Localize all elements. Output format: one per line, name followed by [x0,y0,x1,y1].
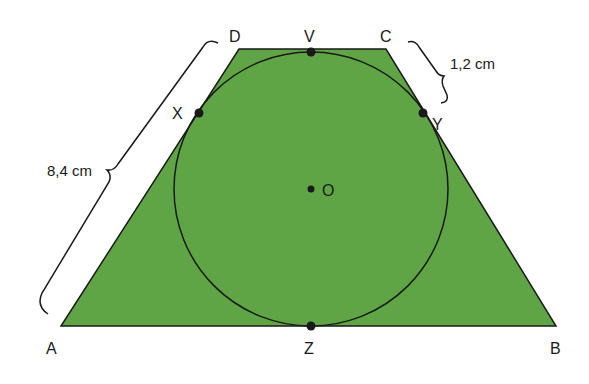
label-o: O [322,182,334,199]
center-o [308,186,315,193]
label-c: C [380,28,392,45]
measure-cy: 1,2 cm [450,55,495,72]
label-v: V [304,28,315,45]
label-d: D [229,28,241,45]
label-a: A [46,340,57,357]
point-y [419,109,428,118]
point-v [307,48,316,57]
label-x: X [172,105,183,122]
measure-ad: 8,4 cm [47,162,92,179]
point-x [195,109,204,118]
label-y: Y [432,116,443,133]
label-z: Z [304,340,314,357]
point-z [307,322,316,331]
label-b: B [550,340,561,357]
inscribed-circle-trapezoid-diagram: D V C X Y O A Z B 8,4 cm 1,2 cm [0,0,589,384]
